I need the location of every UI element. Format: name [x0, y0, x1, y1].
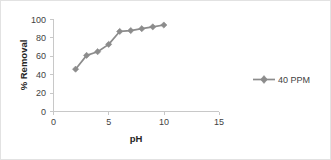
x-axis-ticks [54, 112, 220, 116]
y-tick-label-40: 40 [36, 70, 46, 80]
legend: 40 PPM [253, 75, 310, 85]
x-tick-label-15: 15 [214, 117, 224, 127]
y-axis-title: % Removal [18, 40, 29, 91]
y-tick-label-0: 0 [41, 107, 46, 117]
x-axis-title: pH [130, 133, 143, 144]
chart-container: 0 20 40 60 80 100 0 5 10 15 pH % Removal… [0, 0, 331, 160]
x-tick-label-10: 10 [159, 117, 169, 127]
y-tick-label-60: 60 [36, 51, 46, 61]
legend-marker-icon [261, 76, 268, 84]
y-tick-label-80: 80 [36, 33, 46, 43]
y-tick-label-100: 100 [31, 15, 46, 25]
x-tick-label-0: 0 [51, 117, 56, 127]
chart-plot: 0 20 40 60 80 100 0 5 10 15 pH % Removal… [1, 1, 331, 160]
y-tick-label-20: 20 [36, 88, 46, 98]
y-axis-ticks [50, 20, 54, 112]
legend-label-40ppm: 40 PPM [278, 75, 310, 85]
x-tick-label-5: 5 [106, 117, 111, 127]
